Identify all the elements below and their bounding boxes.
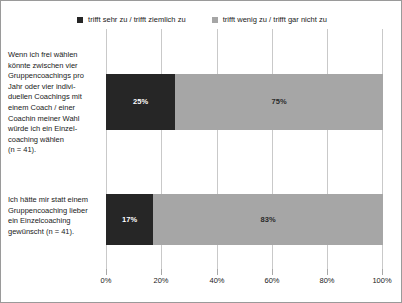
category-label-line: (n = 41).: [8, 145, 102, 156]
category-label-line: Coachin meiner Wahl: [8, 114, 102, 125]
bar-value-label: 17%: [122, 216, 137, 224]
category-label-line: Gruppencoachings pro: [8, 71, 102, 82]
category-label-line: einem Coach / einer: [8, 103, 102, 114]
tickmark-0: [106, 269, 107, 275]
bar-value-label: 83%: [260, 216, 275, 224]
legend-label-agree: trifft sehr zu / trifft ziemlich zu: [88, 16, 186, 24]
category-label-line: könnte zwischen vier: [8, 61, 102, 72]
tickmark-20: [161, 269, 162, 275]
category-label-line: coaching wählen: [8, 135, 102, 146]
bar-row: 25% 75%: [106, 74, 383, 130]
category-label-1: Wenn ich frei wählen könnte zwischen vie…: [8, 50, 102, 156]
category-label-line: ein Einzelcoaching: [8, 216, 102, 227]
tickmark-100: [382, 269, 383, 275]
chart-figure: trifft sehr zu / trifft ziemlich zu trif…: [0, 0, 402, 303]
tickmark-80: [327, 269, 328, 275]
x-axis-tick-label-20: 20%: [153, 277, 168, 285]
x-axis-tick-label-100: 100%: [372, 277, 391, 285]
x-axis-tick-label-0: 0%: [101, 277, 112, 285]
category-label-2: Ich hätte mir statt einem Gruppencoachin…: [8, 195, 102, 237]
legend-entry-disagree: trifft wenig zu / trifft gar nicht zu: [212, 16, 327, 24]
x-axis-tick-label-80: 80%: [319, 277, 334, 285]
legend-entry-agree: trifft sehr zu / trifft ziemlich zu: [77, 16, 186, 24]
tickmark-40: [217, 269, 218, 275]
bar-row: 17% 83%: [106, 194, 383, 245]
bar-segment-agree: 17%: [106, 194, 153, 245]
bar-segment-disagree: 83%: [153, 194, 383, 245]
x-axis-tick-label-60: 60%: [264, 277, 279, 285]
category-label-line: Jahr oder vier indivi-: [8, 82, 102, 93]
bar-value-label: 75%: [271, 98, 286, 106]
bar-value-label: 25%: [133, 98, 148, 106]
category-label-line: duellen Coachings mit: [8, 92, 102, 103]
plot-area: 25% 75% 17% 83%: [106, 29, 383, 269]
bar-segment-agree: 25%: [106, 74, 175, 130]
bar-segment-disagree: 75%: [175, 74, 383, 130]
category-label-line: Wenn ich frei wählen: [8, 50, 102, 61]
category-label-line: würde ich ein Einzel-: [8, 124, 102, 135]
legend-swatch-agree: [77, 17, 83, 23]
category-label-line: Ich hätte mir statt einem: [8, 195, 102, 206]
tickmark-60: [272, 269, 273, 275]
legend-swatch-disagree: [212, 17, 218, 23]
legend-label-disagree: trifft wenig zu / trifft gar nicht zu: [223, 16, 327, 24]
category-label-line: Gruppencoaching lieber: [8, 206, 102, 217]
chart-legend: trifft sehr zu / trifft ziemlich zu trif…: [1, 13, 402, 27]
x-axis-tick-label-40: 40%: [209, 277, 224, 285]
category-label-line: gewünscht (n = 41).: [8, 227, 102, 238]
